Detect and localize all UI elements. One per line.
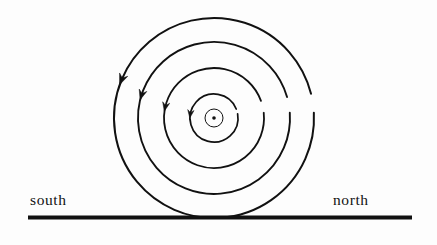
- diagram-canvas: [0, 0, 437, 245]
- label-north: north: [333, 192, 369, 208]
- field-line-diagram: south north: [0, 0, 437, 245]
- center-symbol-group: [205, 109, 223, 127]
- label-south: south: [30, 192, 67, 208]
